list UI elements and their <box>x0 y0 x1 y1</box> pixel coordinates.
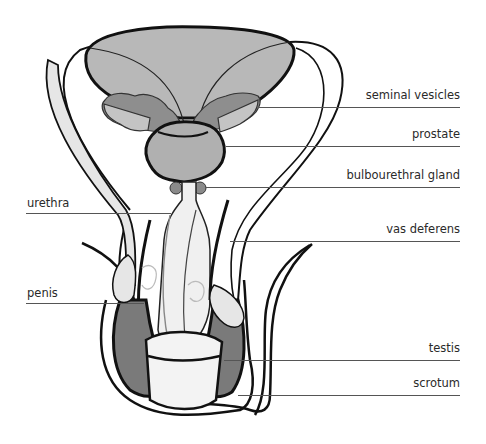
glans <box>146 332 222 409</box>
penis-shaft-right <box>210 200 228 300</box>
epididymis-left <box>113 255 136 303</box>
label-scrotum: scrotum <box>413 376 460 390</box>
leader-scrotum <box>238 395 460 396</box>
leader-penis <box>26 303 144 304</box>
epididymis-outline-left <box>142 266 156 289</box>
label-seminal-vesicles: seminal vesicles <box>366 88 460 102</box>
prostate <box>146 122 224 182</box>
leader-urethra <box>26 213 171 214</box>
label-penis: penis <box>27 286 58 300</box>
leader-seminal-vesicles <box>258 107 460 108</box>
leader-testis <box>224 360 460 361</box>
right-body-contour <box>255 245 310 415</box>
label-bulbourethral-gland: bulbourethral gland <box>346 168 460 182</box>
label-testis: testis <box>429 341 460 355</box>
leader-bulbourethral-gland <box>206 187 460 188</box>
label-vas-deferens: vas deferens <box>386 222 460 236</box>
leader-vas-deferens <box>230 241 460 242</box>
bulbourethral-gland-left <box>170 182 182 194</box>
label-prostate: prostate <box>412 127 460 141</box>
label-urethra: urethra <box>27 196 69 210</box>
leader-prostate <box>226 146 460 147</box>
